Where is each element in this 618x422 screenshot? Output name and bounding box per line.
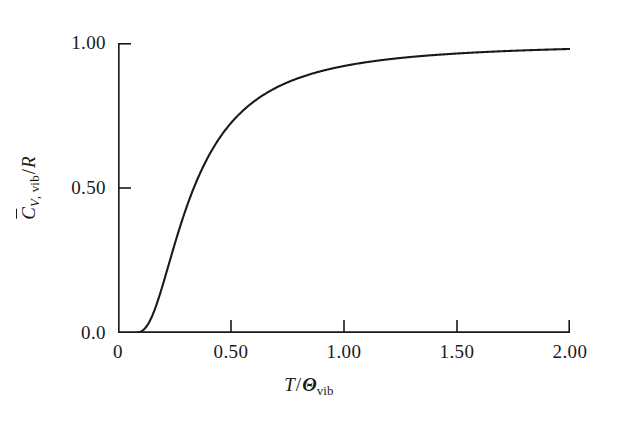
plot-area: [118, 43, 570, 333]
x-tick-label-2.00: 2.00: [553, 341, 588, 363]
y-tick-label-0.0: 0.0: [48, 322, 106, 344]
data-curve-einstein-heat-capacity: [118, 49, 570, 333]
y-tick-label-1.00: 1.00: [48, 32, 106, 54]
x-axis-title-subscript: vib: [317, 383, 334, 398]
y-axis-title-denominator: R: [18, 156, 39, 168]
figure-container: 1.00 0.50 0.0 0 0.50 1.00 1.50 2.00 T/Θv…: [0, 0, 618, 422]
plot-svg: [118, 43, 570, 333]
x-tick-label-0: 0: [113, 341, 123, 363]
y-axis-title-subscript-rest: , vib: [27, 175, 42, 199]
y-axis-title-variable: C: [18, 207, 40, 220]
y-tick-label-0.50: 0.50: [48, 177, 106, 199]
x-axis-title: T/Θvib: [0, 374, 618, 399]
x-tick-label-1.50: 1.50: [440, 341, 475, 363]
x-tick-label-0.50: 0.50: [214, 341, 249, 363]
x-axis-title-variable: T: [284, 374, 295, 395]
x-axis-title-theta: Θ: [302, 374, 317, 395]
x-tick-label-1.00: 1.00: [327, 341, 362, 363]
y-axis-title-slash: /: [18, 168, 39, 175]
y-axis-title: CV, vib/R: [18, 156, 43, 219]
